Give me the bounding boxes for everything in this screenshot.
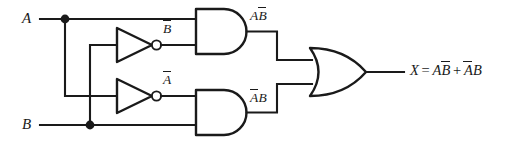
output-lhs: X: [410, 62, 419, 78]
input-label-b: B: [22, 117, 31, 132]
inverter-bottom-bubble: [152, 91, 161, 100]
logic-circuit-diagram: A B B A AB AB X=AB+AB: [0, 0, 526, 148]
output-term1-bar: B: [442, 63, 451, 78]
signal-label-and-top: AB: [250, 9, 267, 23]
not-b-overbar-text: B: [163, 22, 171, 36]
and-gate-top-body: [196, 9, 247, 54]
and-top-second-overbar: B: [258, 9, 266, 23]
output-term1-plain: A: [432, 62, 441, 78]
output-expression: X=AB+AB: [410, 63, 482, 78]
signal-label-not-a: A: [163, 73, 171, 87]
output-equals: =: [419, 62, 432, 78]
inverter-top-triangle: [117, 28, 152, 62]
output-term2-plain: B: [473, 62, 482, 78]
output-plus: +: [451, 62, 464, 78]
and-bottom-first-overbar: A: [250, 91, 258, 105]
signal-label-not-b: B: [163, 22, 171, 36]
and-top-first: A: [250, 8, 258, 23]
inverter-top-bubble: [152, 40, 161, 49]
inverter-bottom-triangle: [117, 79, 152, 113]
junction-dot-a: [61, 15, 70, 24]
signal-label-and-bottom: AB: [250, 91, 267, 105]
junction-dot-b: [86, 121, 95, 130]
input-label-a: A: [22, 11, 31, 26]
output-term2-bar: A: [464, 63, 473, 78]
or-gate-body: [310, 48, 366, 96]
wire-b-to-inverter-top: [90, 45, 117, 125]
wire-and-top-output: [247, 32, 313, 61]
and-bottom-second: B: [258, 90, 266, 105]
not-a-overbar-text: A: [163, 73, 171, 87]
and-gate-bottom-body: [196, 90, 247, 135]
